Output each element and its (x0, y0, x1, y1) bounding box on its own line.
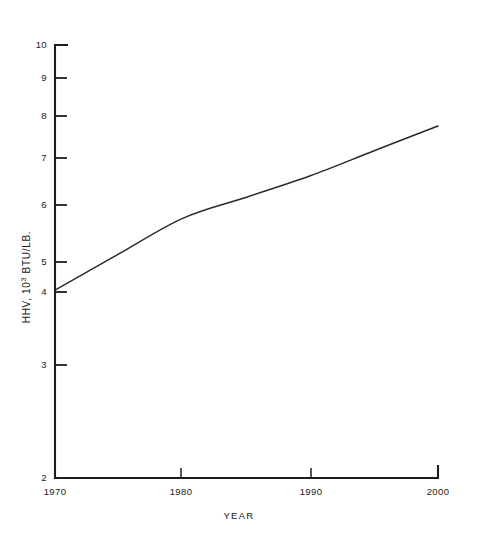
x-tick-label: 1990 (300, 486, 323, 497)
data-series-line (55, 126, 438, 290)
y-tick-label: 9 (41, 72, 47, 83)
y-tick-label: 10 (36, 39, 47, 50)
y-tick-label: 4 (41, 286, 47, 297)
chart-plot-area: 10 9 8 7 6 5 4 3 2 1970 1980 1990 2000 H… (0, 0, 479, 540)
y-axis-title-suffix: BTU/LB. (21, 231, 32, 277)
y-tick-marks (55, 45, 67, 365)
x-axis-title: YEAR (223, 510, 254, 521)
y-tick-label: 8 (41, 110, 47, 121)
y-tick-label: 7 (41, 152, 47, 163)
y-axis-title-prefix: HHV, 10 (21, 281, 32, 323)
chart-figure: 10 9 8 7 6 5 4 3 2 1970 1980 1990 2000 H… (0, 0, 479, 540)
y-axis-title: HHV, 103 BTU/LB. (20, 231, 32, 324)
y-tick-label: 2 (41, 472, 47, 483)
x-tick-label: 2000 (427, 486, 450, 497)
x-axis-line (55, 466, 438, 478)
y-tick-label: 5 (41, 256, 47, 267)
y-tick-label: 6 (41, 199, 47, 210)
y-tick-labels: 10 9 8 7 6 5 4 3 2 (36, 39, 47, 483)
x-tick-labels: 1970 1980 1990 2000 (44, 486, 450, 497)
x-tick-label: 1970 (44, 486, 67, 497)
svg-text:HHV, 103 BTU/LB.: HHV, 103 BTU/LB. (20, 231, 32, 324)
y-tick-label: 3 (41, 359, 47, 370)
x-tick-label: 1980 (170, 486, 193, 497)
x-tick-marks (181, 468, 311, 478)
